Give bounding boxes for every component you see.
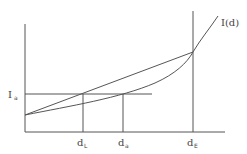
y-label-ia: I xyxy=(8,89,12,100)
x-label-dL-sub: L xyxy=(84,142,88,149)
id-curve xyxy=(25,16,218,115)
x-label-dE: d xyxy=(187,137,194,148)
x-label-dE-sub: E xyxy=(194,142,198,149)
y-label-ia-sub: a xyxy=(14,94,18,101)
curve-label: I(d) xyxy=(221,17,239,28)
economic-diagram: I(d) I a d L d a d E xyxy=(0,0,247,154)
x-label-da-sub: a xyxy=(125,142,129,149)
chord-line xyxy=(25,52,193,115)
x-label-dL: d xyxy=(77,137,84,148)
x-label-da: d xyxy=(118,137,125,148)
